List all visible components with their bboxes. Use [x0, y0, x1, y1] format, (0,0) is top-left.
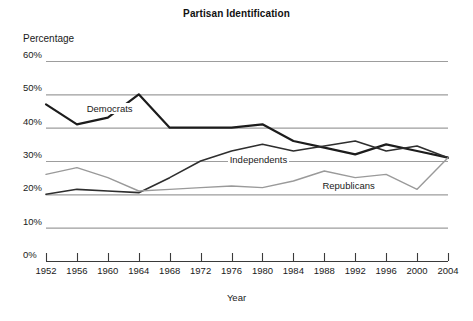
- chart-screenshot: Partisan Identification Percentage 0%10%…: [0, 0, 473, 321]
- y-tick-label-50: 50%: [23, 83, 42, 93]
- x-tick-label-1960: 1960: [92, 266, 124, 276]
- x-tick-label-1996: 1996: [370, 266, 402, 276]
- x-tick-label-1964: 1964: [123, 266, 155, 276]
- y-tick-label-20: 20%: [23, 183, 42, 193]
- series-label-republicans: Republicans: [320, 180, 376, 191]
- x-tick-label-1968: 1968: [154, 266, 186, 276]
- x-tick-label-1956: 1956: [61, 266, 93, 276]
- x-tick-label-2004: 2004: [432, 266, 464, 276]
- x-tick-label-2000: 2000: [401, 266, 433, 276]
- y-tick-label-60: 60%: [23, 50, 42, 60]
- y-tick-label-40: 40%: [23, 117, 42, 127]
- x-tick-label-1976: 1976: [216, 266, 248, 276]
- x-tick-label-1972: 1972: [185, 266, 217, 276]
- x-tick-label-1980: 1980: [246, 266, 278, 276]
- y-tick-label-0: 0%: [23, 250, 37, 260]
- x-tick-label-1952: 1952: [30, 266, 62, 276]
- x-tick-label-1988: 1988: [308, 266, 340, 276]
- series-label-independents: Independents: [228, 154, 290, 165]
- x-axis-title: Year: [0, 292, 473, 303]
- y-tick-label-30: 30%: [23, 150, 42, 160]
- series-label-democrats: Democrats: [85, 103, 135, 114]
- x-tick-label-1984: 1984: [277, 266, 309, 276]
- y-tick-label-10: 10%: [23, 217, 42, 227]
- x-tick-label-1992: 1992: [339, 266, 371, 276]
